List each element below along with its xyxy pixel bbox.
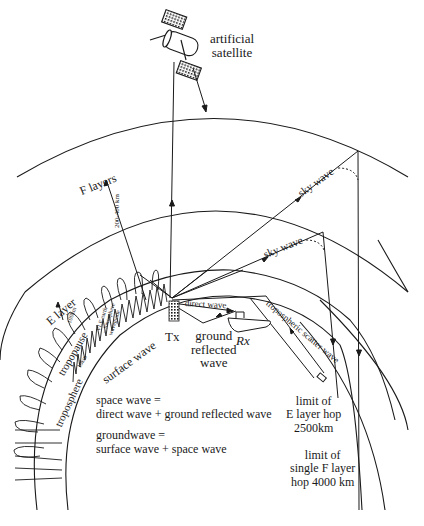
groundwave-definition: groundwave = surface wave + space wave — [96, 429, 227, 457]
tx-transmitter-icon — [169, 301, 179, 321]
space-wave-definition: space wave = direct wave + ground reflec… — [96, 394, 272, 422]
tx-label: Tx — [165, 330, 179, 344]
f-layer-lower-right — [378, 240, 408, 292]
e-layer-arc — [25, 211, 408, 292]
e-layer-hop-limit-label: limit of E layer hop 2500km — [286, 395, 341, 435]
satellite-uplink — [170, 62, 174, 298]
f-layer-arc — [17, 119, 408, 178]
ground-reflected-wave-label: ground reflected wave — [191, 329, 236, 370]
satellite-label: artificial satellite — [210, 32, 254, 59]
f-layer-height-label: 200-400 km — [114, 194, 121, 228]
f-layer-hop-limit-label: limit of single F layer hop 4000 km — [290, 449, 355, 489]
rx-scatter-station-icon — [317, 373, 326, 382]
rx-label: Rx — [236, 334, 250, 348]
e-layer-left — [0, 292, 25, 360]
